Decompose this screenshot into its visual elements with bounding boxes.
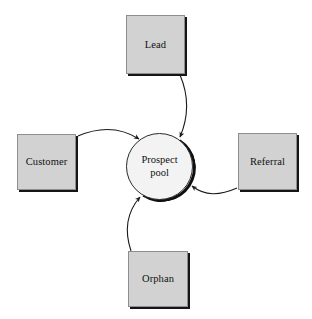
node-lead-label: Lead [145,39,166,51]
hub-label-line-1: Prospect [141,154,177,166]
hub-label: Prospect pool [141,154,177,179]
hub-label-line-2: pool [141,167,177,179]
node-lead[interactable]: Lead [126,15,185,74]
edge-orphan-to-pool [127,197,140,251]
node-orphan-label: Orphan [142,273,174,285]
node-referral[interactable]: Referral [238,133,297,190]
node-orphan[interactable]: Orphan [128,251,188,307]
node-referral-label: Referral [250,156,285,168]
edge-lead-to-pool [180,75,187,137]
hub-prospect-pool[interactable]: Prospect pool [126,133,193,200]
prospect-pool-diagram: Prospect pool Lead Customer Referral Orp… [0,0,312,319]
edge-customer-to-pool [78,130,139,139]
edge-referral-to-pool [192,186,237,194]
node-customer-label: Customer [26,156,68,168]
node-customer[interactable]: Customer [17,134,76,190]
